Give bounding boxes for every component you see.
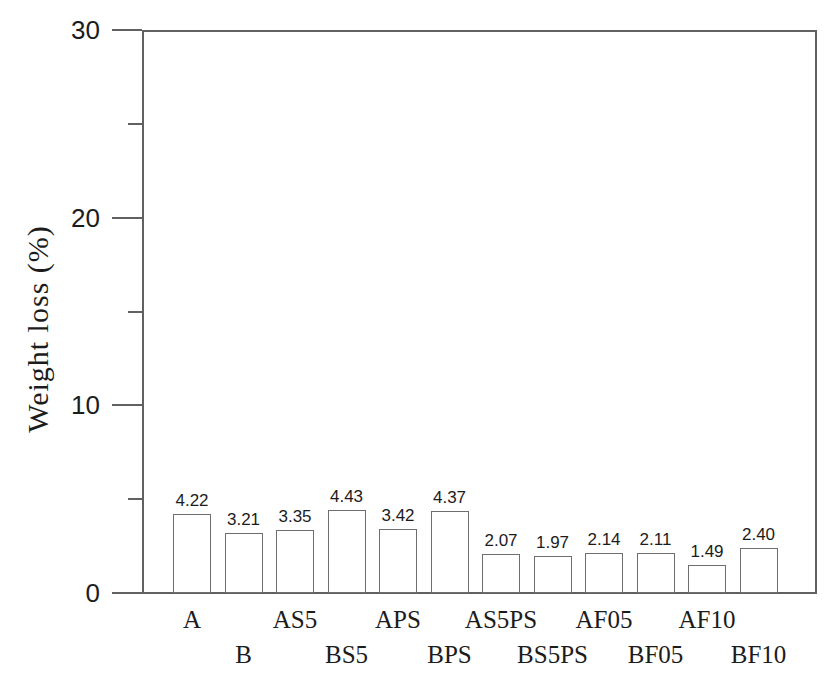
y-tick-label: 30 xyxy=(30,15,100,45)
y-minor-tick xyxy=(128,123,142,125)
bar-BS5PS xyxy=(534,556,572,593)
x-axis-label-AS5PS: AS5PS xyxy=(453,605,549,635)
bar-BPS xyxy=(431,511,469,593)
bar-value-label: 2.40 xyxy=(724,525,794,545)
bar-APS xyxy=(379,529,417,593)
bar-BF05 xyxy=(637,553,675,593)
x-axis-label-BF05: BF05 xyxy=(608,640,704,670)
x-axis-label-A: A xyxy=(144,605,240,635)
bar-value-label: 3.42 xyxy=(363,506,433,526)
x-axis-label-B: B xyxy=(196,640,292,670)
y-axis-line xyxy=(142,30,144,594)
plot-frame-top xyxy=(142,30,817,32)
bar-value-label: 4.37 xyxy=(415,488,485,508)
x-axis-label-BPS: BPS xyxy=(402,640,498,670)
bar-value-label: 1.49 xyxy=(672,542,742,562)
bar-value-label: 3.35 xyxy=(260,507,330,527)
x-axis-label-BS5PS: BS5PS xyxy=(505,640,601,670)
bar-chart-figure: Weight loss (%) 0102030 4.223.213.354.43… xyxy=(0,0,836,679)
bar-AS5PS xyxy=(482,554,520,593)
x-axis-label-AS5: AS5 xyxy=(247,605,343,635)
x-axis-label-BS5: BS5 xyxy=(299,640,395,670)
bar-A xyxy=(173,514,211,593)
y-major-tick xyxy=(112,592,142,594)
bar-value-label: 4.43 xyxy=(312,487,382,507)
bar-AF10 xyxy=(688,565,726,593)
y-minor-tick xyxy=(128,311,142,313)
y-major-tick xyxy=(112,404,142,406)
bar-BS5 xyxy=(328,510,366,593)
bar-AS5 xyxy=(276,530,314,593)
y-tick-label: 0 xyxy=(30,578,100,608)
plot-frame-right xyxy=(815,30,817,594)
x-axis-label-AF05: AF05 xyxy=(556,605,652,635)
x-axis-label-BF10: BF10 xyxy=(711,640,807,670)
x-axis-label-AF10: AF10 xyxy=(659,605,755,635)
y-major-tick xyxy=(112,217,142,219)
bar-value-label: 4.22 xyxy=(157,491,227,511)
bar-BF10 xyxy=(740,548,778,593)
y-major-tick xyxy=(112,29,142,31)
y-tick-label: 10 xyxy=(30,390,100,420)
bar-AF05 xyxy=(585,553,623,593)
y-minor-tick xyxy=(128,498,142,500)
bar-B xyxy=(225,533,263,593)
y-tick-label: 20 xyxy=(30,203,100,233)
x-axis-label-APS: APS xyxy=(350,605,446,635)
